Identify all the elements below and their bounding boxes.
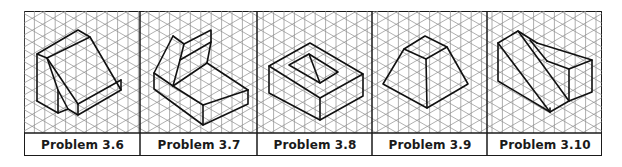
caption-problem-3-10: Problem 3.10 xyxy=(488,133,602,156)
shape-problem-3-6 xyxy=(37,30,121,115)
caption-problem-3-6: Problem 3.6 xyxy=(25,133,140,156)
caption-problem-3-9: Problem 3.9 xyxy=(373,133,487,156)
caption-problem-3-8: Problem 3.8 xyxy=(258,133,372,156)
caption-problem-3-7: Problem 3.7 xyxy=(141,133,257,156)
shape-problem-3-8 xyxy=(269,43,363,120)
